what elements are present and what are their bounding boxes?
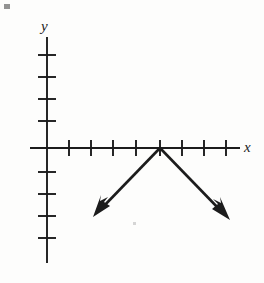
- left-ray: [101, 148, 160, 209]
- scan-artifact-speck: [133, 222, 136, 225]
- y-axis-label: y: [39, 18, 48, 34]
- scan-artifact-speck: [4, 4, 10, 9]
- function-graph-group: [93, 147, 230, 220]
- left-arrowhead-icon: [93, 195, 110, 217]
- right-ray: [160, 148, 221, 211]
- coordinate-plane-svg: x y: [0, 0, 264, 283]
- right-arrowhead-icon: [212, 197, 230, 220]
- vertex-marker: [158, 147, 162, 151]
- graph-figure: x y: [0, 0, 264, 283]
- x-axis-label: x: [243, 139, 251, 155]
- axes-group: [30, 37, 240, 263]
